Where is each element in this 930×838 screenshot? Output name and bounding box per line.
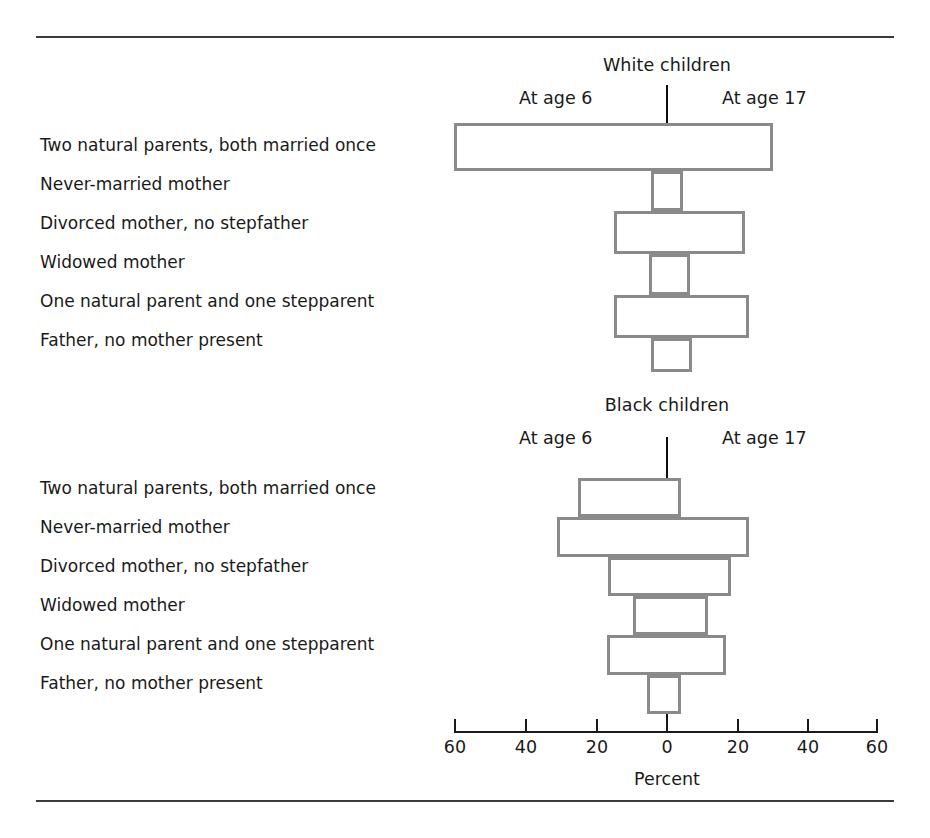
plot-area-black — [0, 395, 930, 695]
tick-minus-40 — [525, 719, 527, 733]
tick-zero — [666, 719, 668, 733]
tick-label-plus-40: 40 — [783, 737, 833, 757]
tick-plus-60 — [876, 719, 878, 733]
bar-white-divorced-mother — [614, 211, 745, 254]
bar-black-divorced-mother — [608, 557, 731, 596]
tick-label-minus-60: 60 — [430, 737, 480, 757]
figure-chart: White children At age 6 At age 17 Two na… — [0, 0, 930, 838]
tick-label-plus-20: 20 — [713, 737, 763, 757]
tick-plus-20 — [737, 719, 739, 733]
bar-white-widowed-mother — [649, 254, 690, 295]
tick-minus-60 — [454, 719, 456, 733]
panel-black-children: Black children At age 6 At age 17 Two na… — [0, 395, 930, 695]
plot-area-white — [0, 55, 930, 355]
bar-white-never-married-mother — [651, 171, 683, 211]
bar-black-two-natural-parents — [578, 478, 681, 517]
panel-white-children: White children At age 6 At age 17 Two na… — [0, 55, 930, 355]
bar-black-never-married-mother — [557, 517, 749, 557]
tick-plus-40 — [807, 719, 809, 733]
tick-label-minus-40: 40 — [501, 737, 551, 757]
tick-label-zero: 0 — [642, 737, 692, 757]
bar-black-widowed-mother — [633, 596, 708, 635]
x-axis: 60 40 20 0 20 40 60 Percent — [0, 715, 930, 805]
tick-label-plus-60: 60 — [852, 737, 902, 757]
tick-label-minus-20: 20 — [572, 737, 622, 757]
bar-white-two-natural-parents — [454, 123, 773, 171]
bar-black-father-no-mother — [647, 675, 681, 714]
tick-minus-20 — [596, 719, 598, 733]
bar-black-one-stepparent — [607, 635, 726, 675]
bar-white-father-no-mother — [651, 338, 692, 372]
top-rule — [36, 36, 894, 38]
axis-title: Percent — [567, 769, 767, 789]
bar-white-one-stepparent — [614, 295, 749, 338]
